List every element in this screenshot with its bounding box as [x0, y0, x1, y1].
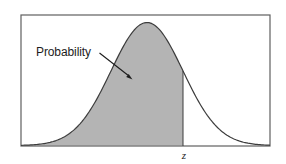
probability-label: Probability — [36, 45, 91, 59]
z-axis-label: z — [181, 149, 187, 161]
normal-distribution-figure: Probability z — [0, 0, 286, 164]
shaded-probability-area — [22, 23, 184, 146]
figure-svg: Probability z — [0, 0, 286, 164]
